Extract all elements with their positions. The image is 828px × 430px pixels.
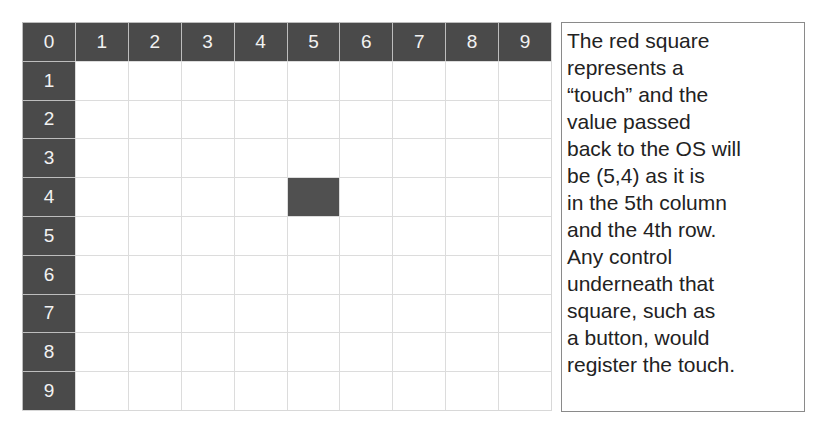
grid-cell — [234, 177, 287, 216]
touch-grid: 0123456789123456789 — [22, 22, 552, 411]
row-header-6: 6 — [22, 255, 75, 294]
caption-line: be (5,4) as it is — [567, 162, 800, 189]
grid-cell — [339, 255, 392, 294]
grid-cell — [392, 216, 445, 255]
caption-line: back to the OS will — [567, 135, 800, 162]
grid-cell — [181, 100, 234, 139]
grid-cell — [287, 371, 340, 410]
grid-cell — [128, 332, 181, 371]
caption-line: Any control — [567, 243, 800, 270]
row-header-5: 5 — [22, 216, 75, 255]
grid-cell — [445, 294, 498, 333]
column-header-9: 9 — [498, 22, 551, 61]
row-header-8: 8 — [22, 332, 75, 371]
origin-header-cell: 0 — [22, 22, 75, 61]
grid-cell — [445, 138, 498, 177]
grid-cell — [75, 371, 128, 410]
caption-box: The red squarerepresents a“touch” and th… — [561, 22, 805, 412]
grid-cell — [498, 216, 551, 255]
row-header-2: 2 — [22, 100, 75, 139]
grid-cell — [445, 332, 498, 371]
caption-line: a button, would — [567, 324, 800, 351]
row-header-4: 4 — [22, 177, 75, 216]
row-header-7: 7 — [22, 294, 75, 333]
column-header-1: 1 — [75, 22, 128, 61]
grid-cell — [339, 100, 392, 139]
grid-cell — [339, 138, 392, 177]
caption-line: The red square — [567, 27, 800, 54]
grid-cell — [392, 177, 445, 216]
grid-cell — [75, 294, 128, 333]
grid-cell — [181, 61, 234, 100]
grid-cell — [339, 332, 392, 371]
grid-cell — [234, 294, 287, 333]
grid-cell — [128, 177, 181, 216]
column-header-8: 8 — [445, 22, 498, 61]
grid-cell — [498, 61, 551, 100]
grid-cell — [234, 332, 287, 371]
grid-cell — [287, 255, 340, 294]
grid-cell — [75, 216, 128, 255]
grid-cell — [234, 216, 287, 255]
grid-cell — [392, 371, 445, 410]
grid-cell — [75, 138, 128, 177]
column-header-3: 3 — [181, 22, 234, 61]
grid-cell — [128, 100, 181, 139]
grid-cell — [75, 100, 128, 139]
grid-cell — [445, 61, 498, 100]
grid-cell — [128, 255, 181, 294]
column-header-4: 4 — [234, 22, 287, 61]
column-header-7: 7 — [392, 22, 445, 61]
grid-cell — [339, 216, 392, 255]
caption-line: “touch” and the — [567, 81, 800, 108]
column-header-6: 6 — [339, 22, 392, 61]
grid-cell — [498, 100, 551, 139]
grid-cell — [181, 294, 234, 333]
grid-cell — [392, 138, 445, 177]
caption-line: square, such as — [567, 297, 800, 324]
grid-cell — [181, 332, 234, 371]
column-header-5: 5 — [287, 22, 340, 61]
grid-cell — [339, 61, 392, 100]
grid-cell — [392, 332, 445, 371]
caption-line: register the touch. — [567, 351, 800, 378]
grid-cell — [392, 255, 445, 294]
grid-cell — [181, 371, 234, 410]
grid-cell — [75, 177, 128, 216]
grid-cell — [128, 294, 181, 333]
touch-square — [287, 177, 340, 216]
grid-cell — [75, 61, 128, 100]
grid-cell — [234, 255, 287, 294]
caption-line: and the 4th row. — [567, 216, 800, 243]
caption-line: value passed — [567, 108, 800, 135]
grid-cell — [498, 138, 551, 177]
row-header-9: 9 — [22, 371, 75, 410]
grid-cell — [287, 100, 340, 139]
grid-cell — [234, 100, 287, 139]
row-header-1: 1 — [22, 61, 75, 100]
grid-cell — [234, 138, 287, 177]
grid-cell — [181, 216, 234, 255]
grid-cell — [498, 177, 551, 216]
row-header-3: 3 — [22, 138, 75, 177]
grid-cell — [128, 371, 181, 410]
grid-cell — [287, 332, 340, 371]
grid-cell — [181, 255, 234, 294]
grid-cell — [287, 216, 340, 255]
caption-line: in the 5th column — [567, 189, 800, 216]
grid-cell — [445, 371, 498, 410]
grid-cell — [234, 61, 287, 100]
grid-cell — [75, 255, 128, 294]
grid-cell — [445, 100, 498, 139]
grid-cell — [128, 138, 181, 177]
grid-cell — [392, 294, 445, 333]
grid-cell — [339, 294, 392, 333]
grid-cell — [75, 332, 128, 371]
grid-cell — [392, 100, 445, 139]
grid-cell — [234, 371, 287, 410]
grid-cell — [339, 177, 392, 216]
grid-cell — [498, 332, 551, 371]
grid-cell — [128, 216, 181, 255]
grid-cell — [498, 294, 551, 333]
caption-line: represents a — [567, 54, 800, 81]
